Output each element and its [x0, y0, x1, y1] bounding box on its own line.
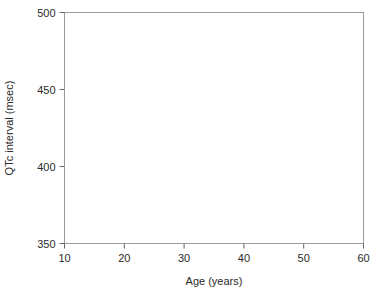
x-tick-label: 60 [357, 252, 369, 264]
x-axis-title: Age (years) [186, 275, 243, 287]
y-axis-title: QTc interval (msec) [3, 81, 15, 176]
y-tick-label: 500 [37, 7, 55, 19]
chart-background [0, 0, 374, 294]
x-tick-label: 10 [58, 252, 70, 264]
chart-canvas: 350400450500 102030405060 Age (years) QT… [0, 0, 374, 294]
qtc-vs-age-scatter-chart: 350400450500 102030405060 Age (years) QT… [0, 0, 374, 294]
x-tick-label: 20 [118, 252, 130, 264]
y-tick-label: 450 [37, 84, 55, 96]
x-tick-label: 40 [238, 252, 250, 264]
x-tick-label: 30 [178, 252, 190, 264]
x-tick-label: 50 [298, 252, 310, 264]
y-tick-label: 350 [37, 238, 55, 250]
y-tick-label: 400 [37, 161, 55, 173]
